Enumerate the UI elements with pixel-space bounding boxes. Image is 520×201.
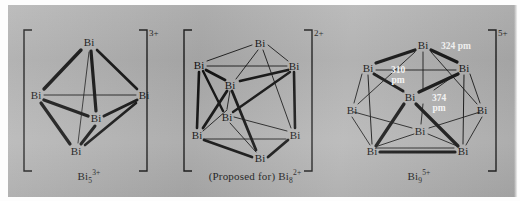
cluster-panel-bi5: 3+ Bi Bi Bi Bi Bi Bi53+ xyxy=(8,0,170,201)
bi5-bond-bold xyxy=(97,50,137,89)
bi9-bond-bold xyxy=(419,74,458,92)
atom-label-bi: Bi xyxy=(477,104,487,116)
atom-label-bi: Bi xyxy=(255,152,265,164)
bi8-bond-bold xyxy=(206,70,225,80)
bi5-bond-bold xyxy=(44,100,88,116)
bi8-bond-bold xyxy=(233,72,290,112)
bi9-bond-thin xyxy=(352,117,370,145)
measurement-310pm-line1: 310 xyxy=(391,65,406,75)
bi8-caption-superscript: 2+ xyxy=(293,168,301,177)
page-edge-left xyxy=(0,0,8,201)
cluster-panel-bi8: 2+ xyxy=(170,0,340,201)
bi8-bond-bold xyxy=(204,140,252,157)
bi9-caption-subscript: 9 xyxy=(418,176,422,185)
atom-label-bi: Bi xyxy=(415,125,425,137)
bi5-bond-bold xyxy=(104,100,137,116)
atom-label-bi: Bi xyxy=(225,79,235,91)
bi8-bond-set xyxy=(197,45,295,157)
bi5-bond-set xyxy=(41,50,137,145)
atom-label-bi: Bi xyxy=(459,62,469,74)
bi8-bond-bold xyxy=(268,140,288,157)
cluster-panel-bi9: 5+ xyxy=(340,0,514,201)
measurement-310pm-line2: pm xyxy=(391,75,404,85)
bi9-bond-thin xyxy=(354,112,412,128)
atom-label-bi: Bi xyxy=(84,36,94,48)
bi8-caption-formula: Bi xyxy=(278,170,289,182)
atom-label-bi: Bi xyxy=(289,60,299,72)
atom-label-bi: Bi xyxy=(363,62,373,74)
bi5-caption-subscript: 5 xyxy=(88,176,92,185)
atom-label-bi: Bi xyxy=(347,104,357,116)
bi5-charge-superscript: 3+ xyxy=(149,28,159,38)
bi8-bond-bold xyxy=(294,72,295,128)
bi8-bond-thin xyxy=(268,45,288,61)
atom-label-bi: Bi xyxy=(290,129,300,141)
bi9-bracket-right xyxy=(488,30,496,171)
atom-label-bi: Bi xyxy=(139,89,149,101)
bi5-caption: Bi53+ xyxy=(8,168,170,185)
atom-label-bi: Bi xyxy=(367,145,377,157)
bi9-bond-thin xyxy=(463,75,464,144)
bi9-bond-thin xyxy=(421,104,423,124)
bi8-bond-thin xyxy=(227,91,230,109)
bi8-bond-thin xyxy=(234,117,287,131)
atom-label-bi: Bi xyxy=(192,129,202,141)
bi5-bond-bold xyxy=(44,50,81,89)
bi9-bond-bold xyxy=(376,50,415,63)
bi5-bond-bold xyxy=(91,51,96,111)
bi9-bond-thin xyxy=(354,74,362,103)
bi9-caption-superscript: 5+ xyxy=(422,168,430,177)
page-edge-right xyxy=(514,0,520,201)
bi8-bond-bold xyxy=(197,72,199,128)
measurement-324pm: 324 pm xyxy=(441,41,471,51)
atom-label-bi: Bi xyxy=(222,111,232,123)
bi8-bond-thin xyxy=(236,50,258,79)
bi8-caption-subscript: 8 xyxy=(289,176,293,185)
atom-label-bi: Bi xyxy=(405,91,415,103)
atom-label-bi: Bi xyxy=(458,145,468,157)
bi8-caption-prefix: (Proposed for) xyxy=(209,170,279,182)
atom-label-bi: Bi xyxy=(194,59,204,71)
bi9-atom-labels: Bi Bi Bi Bi Bi Bi Bi Bi Bi xyxy=(347,39,487,157)
bi9-charge-superscript: 5+ xyxy=(498,28,508,38)
atom-label-bi: Bi xyxy=(91,112,101,124)
bi5-bond-thin xyxy=(78,52,89,143)
bi5-caption-formula: Bi xyxy=(77,170,88,182)
atom-label-bi: Bi xyxy=(255,37,265,49)
bi9-bond-thin xyxy=(368,75,372,144)
measurement-374pm-line1: 374 xyxy=(432,93,447,103)
bi9-bond-thin xyxy=(466,117,482,145)
atom-label-bi: Bi xyxy=(418,39,428,51)
atom-label-bi: Bi xyxy=(71,145,81,157)
bi9-bond-thin xyxy=(470,74,480,103)
measurement-374pm-line2: pm xyxy=(432,103,445,113)
bi9-caption-formula: Bi xyxy=(407,170,418,182)
bi8-caption: (Proposed for) Bi82+ xyxy=(170,168,340,185)
bi8-bond-thin xyxy=(207,45,252,61)
bi8-bracket-left xyxy=(184,30,192,171)
bi8-charge-superscript: 2+ xyxy=(314,28,324,38)
atom-label-bi: Bi xyxy=(31,89,41,101)
bi8-bracket-right xyxy=(304,30,312,171)
bi9-caption: Bi95+ xyxy=(332,168,506,185)
figure-plate: 3+ Bi Bi Bi Bi Bi Bi53+ xyxy=(0,0,520,201)
bi5-bond-bold xyxy=(85,103,136,145)
bi5-caption-superscript: 3+ xyxy=(92,168,100,177)
